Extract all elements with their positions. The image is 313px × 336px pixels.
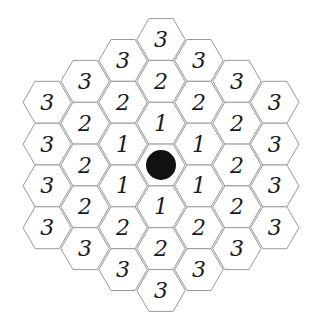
center-marker-icon <box>146 150 176 180</box>
cell-number: 2 <box>153 69 168 94</box>
cell-number: 2 <box>229 111 244 136</box>
cell-number: 3 <box>40 173 54 198</box>
cell-number: 2 <box>77 111 92 136</box>
hex-grid: 333323322321231132231132123223323333 <box>0 0 313 336</box>
cell-number: 2 <box>77 194 92 219</box>
cell-number: 2 <box>229 194 244 219</box>
cell-number: 1 <box>192 173 206 198</box>
cell-number: 3 <box>192 48 206 73</box>
cell-number: 2 <box>153 236 168 261</box>
cell-number: 3 <box>116 48 130 73</box>
cell-number: 3 <box>268 173 282 198</box>
cell-number: 3 <box>116 257 130 282</box>
cell-number: 3 <box>154 278 168 303</box>
cell-number: 2 <box>115 90 130 115</box>
cell-number: 3 <box>40 215 54 240</box>
cell-number: 1 <box>116 173 130 198</box>
hex-board: 333323322321231132231132123223323333 <box>0 0 313 336</box>
cell-number: 3 <box>78 69 92 94</box>
cell-number: 3 <box>78 236 92 261</box>
cell-number: 3 <box>40 90 54 115</box>
cell-number: 3 <box>268 215 282 240</box>
cell-number: 1 <box>154 194 168 219</box>
cell-number: 3 <box>268 90 282 115</box>
cell-number: 3 <box>230 69 244 94</box>
cell-number: 1 <box>192 132 206 157</box>
cell-number: 2 <box>229 153 244 178</box>
cell-number: 2 <box>77 153 92 178</box>
cell-number: 1 <box>116 132 130 157</box>
cell-number: 3 <box>40 132 54 157</box>
cell-number: 3 <box>268 132 282 157</box>
cell-number: 2 <box>191 90 206 115</box>
cell-number: 3 <box>154 27 168 52</box>
cell-number: 1 <box>154 111 168 136</box>
cell-number: 3 <box>192 257 206 282</box>
cell-number: 2 <box>115 215 130 240</box>
cell-number: 3 <box>230 236 244 261</box>
cell-number: 2 <box>191 215 206 240</box>
